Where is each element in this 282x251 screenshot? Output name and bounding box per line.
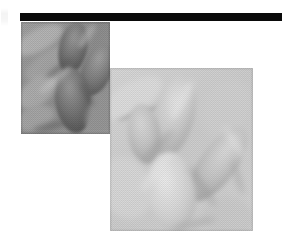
black-header-rule [20, 13, 282, 21]
micrograph-image-b [110, 68, 253, 231]
figure-canvas [0, 0, 282, 251]
micrograph-panel-b [110, 68, 253, 231]
scan-edge-artifact [1, 8, 8, 26]
micrograph-image-a [21, 22, 110, 134]
micrograph-panel-a [21, 22, 110, 134]
